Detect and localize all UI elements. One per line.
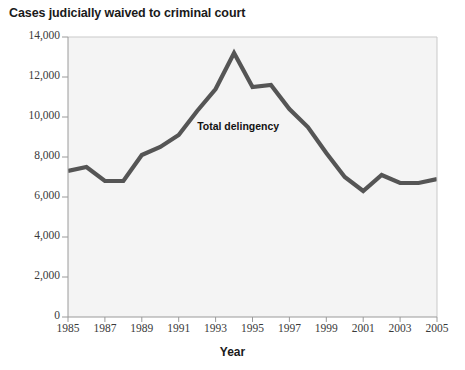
x-axis-tick-label: 2005: [412, 322, 462, 334]
series-annotation-label: Total delingency: [197, 120, 279, 132]
x-axis-title: Year: [0, 345, 465, 359]
chart-figure: Cases judicially waived to criminal cour…: [0, 0, 465, 370]
x-axis-tick-labels: 1985198719891991199319951997199920012003…: [0, 0, 465, 370]
